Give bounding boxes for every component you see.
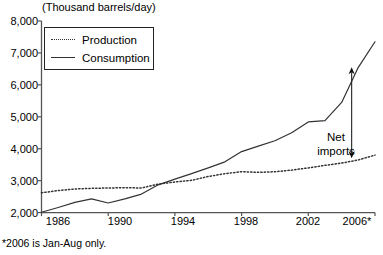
x-axis-tick-label: 1994 bbox=[171, 216, 195, 227]
oil-production-consumption-chart: (Thousand barrels/day) 8,000 7,000 6,000… bbox=[0, 0, 383, 255]
chart-legend[interactable]: Production Consumption bbox=[44, 27, 154, 70]
x-axis-tick-label: 1990 bbox=[108, 216, 132, 227]
legend-item-production[interactable]: Production bbox=[51, 31, 137, 49]
legend-label: Consumption bbox=[82, 52, 150, 64]
x-axis-tick-label: 1998 bbox=[234, 216, 258, 227]
legend-label: Production bbox=[82, 34, 137, 46]
chart-footnote: *2006 is Jan-Aug only. bbox=[2, 237, 106, 249]
net-imports-label-line1: Net bbox=[308, 131, 364, 144]
x-axis-tick-label: 1986 bbox=[46, 216, 70, 227]
x-axis-labels: 1986 1990 1994 1998 2002 2006* bbox=[0, 216, 383, 232]
x-axis-tick-label: 2002 bbox=[296, 216, 320, 227]
dotted-line-icon bbox=[51, 35, 75, 45]
solid-line-icon bbox=[51, 53, 75, 63]
x-axis-tick-label: 2006* bbox=[343, 216, 372, 227]
net-imports-label-line2: imports bbox=[303, 145, 369, 158]
legend-item-consumption[interactable]: Consumption bbox=[51, 49, 150, 67]
